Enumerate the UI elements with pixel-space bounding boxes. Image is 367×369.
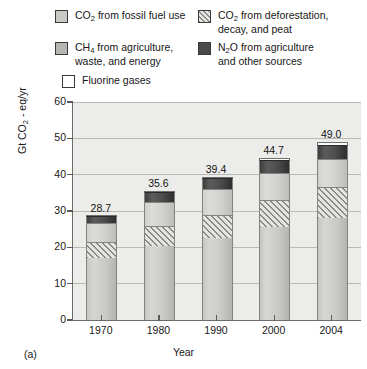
panel-label: (a) xyxy=(24,348,37,360)
bar-segment-deforestation xyxy=(144,226,175,246)
bar-segment-n2o xyxy=(259,160,290,173)
legend-swatch-deforestation-co2-icon xyxy=(198,10,211,23)
legend-item-fluorine-gases: Fluorine gases xyxy=(62,74,151,88)
legend-item-ch4: CH4 from agriculture,waste, and energy xyxy=(55,41,173,68)
bar-segment-deforestation xyxy=(259,200,290,227)
y-axis-tick xyxy=(67,174,73,175)
bar-segment-deforestation xyxy=(86,242,117,258)
y-axis-tick-label: 40 xyxy=(36,168,66,180)
bar-value-label-1990: 39.4 xyxy=(206,163,226,175)
x-axis-tick xyxy=(274,315,275,321)
y-axis-tick xyxy=(67,210,73,211)
legend-label-deforestation-co2: CO2 from deforestation,decay, and peat xyxy=(218,9,328,36)
x-axis-tick-label-1980: 1980 xyxy=(136,324,180,336)
legend-label-fossil-co2: CO2 from fossil fuel use xyxy=(75,9,185,23)
x-axis-tick xyxy=(216,315,217,321)
legend-swatch-n2o-icon xyxy=(198,42,211,55)
bar-segment-fossil xyxy=(259,227,290,320)
x-axis-tick xyxy=(101,315,102,321)
emissions-figure: CO2 from fossil fuel use CO2 from defore… xyxy=(0,0,367,369)
legend-swatch-fossil-co2-icon xyxy=(55,10,68,23)
legend-item-fossil-co2: CO2 from fossil fuel use xyxy=(55,9,185,23)
bar-2000 xyxy=(259,158,290,320)
bar-1980 xyxy=(144,191,175,320)
y-axis-tick xyxy=(67,101,73,102)
bar-segment-ch4 xyxy=(202,189,233,214)
bar-value-label-2004: 49.0 xyxy=(321,128,341,140)
bar-value-label-1980: 35.6 xyxy=(148,177,168,189)
bar-segment-fossil xyxy=(144,246,175,320)
y-axis-tick xyxy=(67,247,73,248)
bar-segment-n2o xyxy=(144,192,175,202)
y-axis-title: Gt CO2 - eq/yr xyxy=(16,87,28,154)
bar-segment-fossil xyxy=(317,218,348,320)
legend-swatch-ch4-icon xyxy=(55,42,68,55)
plot-area xyxy=(72,102,361,321)
bar-value-label-2000: 44.7 xyxy=(263,144,283,156)
y-axis-tick-label: 60 xyxy=(36,95,66,107)
bar-segment-ch4 xyxy=(86,223,117,242)
bar-segment-n2o xyxy=(202,178,233,189)
bar-segment-n2o xyxy=(317,145,348,159)
x-axis-tick-label-1990: 1990 xyxy=(194,324,238,336)
bar-segment-fossil xyxy=(202,238,233,320)
chart-legend: CO2 from fossil fuel use CO2 from defore… xyxy=(0,0,367,96)
y-axis-tick-label: 50 xyxy=(36,131,66,143)
legend-item-deforestation-co2: CO2 from deforestation,decay, and peat xyxy=(198,9,328,36)
gridline xyxy=(73,102,361,103)
bar-1990 xyxy=(202,177,233,320)
x-axis-tick-label-1970: 1970 xyxy=(79,324,123,336)
y-axis-tick-label: 20 xyxy=(36,240,66,252)
y-axis-tick xyxy=(67,319,73,320)
bar-2004 xyxy=(317,142,348,320)
y-axis-tick-label: 10 xyxy=(36,277,66,289)
x-axis-tick-label-2004: 2004 xyxy=(309,324,353,336)
bar-1970 xyxy=(86,215,117,320)
y-axis-tick-label: 30 xyxy=(36,204,66,216)
legend-label-fluorine-gases: Fluorine gases xyxy=(82,74,151,86)
bar-value-label-1970: 28.7 xyxy=(91,202,111,214)
x-axis-tick xyxy=(331,315,332,321)
legend-label-ch4: CH4 from agriculture,waste, and energy xyxy=(75,41,173,68)
y-axis-tick xyxy=(67,138,73,139)
y-axis-tick-label: 0 xyxy=(36,313,66,325)
gridline xyxy=(73,138,361,139)
legend-swatch-fluorine-gases-icon xyxy=(62,75,75,88)
bar-segment-deforestation xyxy=(202,215,233,239)
legend-label-n2o: N2O from agricultureand other sources xyxy=(218,41,314,68)
legend-item-n2o: N2O from agricultureand other sources xyxy=(198,41,314,68)
chart-plot-wrapper: Gt CO2 - eq/yr Year 010203040506028.7197… xyxy=(0,96,367,369)
x-axis-tick xyxy=(158,315,159,321)
bar-segment-deforestation xyxy=(317,187,348,218)
bar-segment-ch4 xyxy=(144,202,175,226)
y-axis-tick xyxy=(67,283,73,284)
bar-segment-ch4 xyxy=(317,159,348,188)
x-axis-title: Year xyxy=(0,346,367,358)
x-axis-tick-label-2000: 2000 xyxy=(252,324,296,336)
bar-segment-fossil xyxy=(86,258,117,320)
bar-segment-ch4 xyxy=(259,173,290,200)
